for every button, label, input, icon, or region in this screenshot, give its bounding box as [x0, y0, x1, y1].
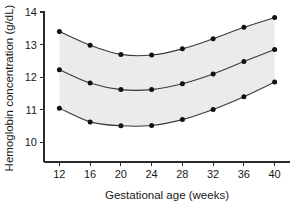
data-point — [180, 117, 185, 122]
data-point — [241, 25, 246, 30]
data-point — [57, 67, 62, 72]
data-point — [211, 36, 216, 41]
data-point — [241, 94, 246, 99]
data-point — [118, 52, 123, 57]
data-point — [88, 119, 93, 124]
data-point — [118, 123, 123, 128]
data-point — [88, 43, 93, 48]
data-point — [118, 87, 123, 92]
chart-figure: 1011121314 1216202428323640 Gestational … — [0, 0, 297, 204]
data-point — [57, 106, 62, 111]
data-point — [241, 59, 246, 64]
data-point — [149, 87, 154, 92]
data-point — [149, 123, 154, 128]
data-point — [88, 81, 93, 86]
data-point — [149, 53, 154, 58]
y-tick-label: 11 — [26, 104, 37, 116]
data-point — [211, 71, 216, 76]
data-point — [180, 81, 185, 86]
x-tick-label: 32 — [207, 168, 219, 180]
x-tick-label: 36 — [238, 168, 250, 180]
y-tick-label: 10 — [25, 136, 37, 148]
y-axis-title: Hemoglobin concentration (g/dL) — [3, 4, 15, 171]
data-point — [180, 46, 185, 51]
x-tick-label: 12 — [53, 168, 65, 180]
hemoglobin-gestational-age-line-chart: 1011121314 1216202428323640 Gestational … — [0, 0, 297, 204]
y-tick-label: 12 — [25, 71, 37, 83]
x-tick-label: 16 — [84, 168, 96, 180]
x-tick-label: 24 — [146, 168, 158, 180]
data-point — [272, 15, 277, 20]
data-point — [57, 29, 62, 34]
x-tick-label: 40 — [269, 168, 281, 180]
x-axis-title: Gestational age (weeks) — [105, 189, 229, 201]
x-tick-label: 28 — [176, 168, 188, 180]
data-point — [272, 80, 277, 85]
y-tick-label: 13 — [25, 39, 37, 51]
x-tick-label: 20 — [115, 168, 127, 180]
data-point — [211, 107, 216, 112]
y-tick-label: 14 — [25, 6, 37, 18]
data-point — [272, 47, 277, 52]
